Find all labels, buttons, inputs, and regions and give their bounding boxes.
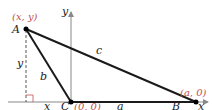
point-c-label: C <box>61 100 70 110</box>
point-c-coord: (0, 0) <box>74 101 101 110</box>
height-y-label: y <box>16 57 24 70</box>
width-x-label: x <box>44 100 51 110</box>
side-c-label: c <box>96 44 102 57</box>
side-b-label: b <box>40 70 47 83</box>
point-b-coord: (a, 0) <box>180 87 207 98</box>
right-angle-marker <box>26 95 33 102</box>
x-axis-label: x <box>198 100 205 110</box>
point-a <box>24 27 29 32</box>
y-axis-label: y <box>61 5 69 18</box>
point-a-label: A <box>11 23 20 36</box>
side-b <box>26 29 71 102</box>
triangle-diagram: (x, y) A y c b y x C (0, 0) a (a, 0) B x <box>0 0 212 110</box>
side-a-label: a <box>117 100 124 110</box>
point-b-label: B <box>171 100 180 110</box>
side-c <box>26 29 196 102</box>
point-a-coord: (x, y) <box>12 11 38 22</box>
